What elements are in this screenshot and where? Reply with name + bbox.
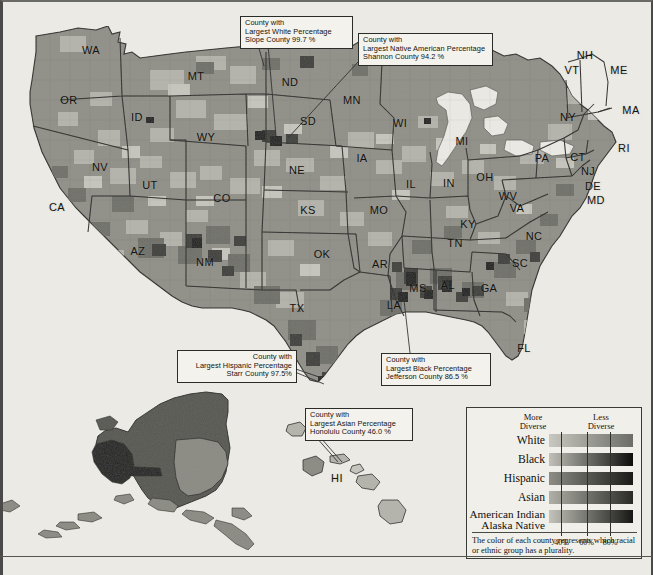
callout-black: County withLargest Black PercentageJeffe… [381,353,491,386]
state-label-nd: ND [282,76,299,88]
legend-label-hispanic: Hispanic [473,470,545,487]
state-label-co: CO [213,192,230,204]
state-label-ky: KY [460,218,475,230]
state-label-vt: VT [565,64,580,76]
state-label-az: AZ [131,245,146,257]
state-label-md: MD [587,194,605,206]
state-label-nm: NM [196,256,214,268]
callout-hispanic-line-3: Starr County 97.5% [182,370,292,379]
state-label-ca: CA [49,201,65,213]
state-label-id: ID [131,111,143,123]
page-bottom-rule [0,556,653,557]
state-label-pa: PA [535,152,550,164]
legend-tick-60 [587,432,588,536]
state-label-nv: NV [92,161,108,173]
state-label-mo: MO [370,204,389,216]
state-label-nj: NJ [581,165,595,177]
callout-native-american: County withLargest Native American Perce… [358,33,493,66]
state-label-sd: SD [300,115,316,127]
legend-heading-more-diverse: More Diverse [511,413,555,432]
state-label-ny: NY [560,111,576,123]
callout-hispanic: County withLargest Hispanic PercentageSt… [177,350,297,383]
callout-white-line-3: Slope County 99.7 % [245,36,348,45]
legend-heading-less-diverse: Less Diverse [579,413,623,432]
state-label-la: LA [387,299,401,311]
legend-tick-80 [610,432,611,536]
state-label-wa: WA [82,44,100,56]
state-label-or: OR [60,94,77,106]
state-label-tn: TN [447,237,462,249]
legend-label-white: White [473,432,545,449]
legend-caption: The color of each county represents whic… [472,532,637,555]
state-label-ok: OK [314,248,331,260]
state-label-ct: CT [570,151,585,163]
state-label-ma: MA [622,104,639,116]
state-label-sc: SC [512,257,528,269]
state-label-mt: MT [188,70,205,82]
state-label-hi: HI [331,472,343,484]
state-label-wv: WV [499,190,518,202]
state-label-wy: WY [197,131,216,143]
callout-asian: County withLargest Asian PercentageHonol… [305,408,413,441]
legend-tick-40 [561,432,562,536]
state-label-ne: NE [289,164,305,176]
state-label-ri: RI [618,142,630,154]
legend-tick-marks: 40%60%80% [543,432,627,536]
callout-asian-line-3: Honolulu County 46.0 % [310,428,408,437]
callout-white: County withLargest White PercentageSlope… [240,16,353,49]
legend-label-black: Black [473,451,545,468]
state-label-fl: FL [517,342,531,354]
state-label-ks: KS [300,204,315,216]
state-label-nh: NH [577,49,594,61]
state-label-me: ME [610,64,627,76]
callout-native-american-line-3: Shannon County 94.2 % [363,53,488,62]
state-label-il: IL [406,178,416,190]
callout-black-line-3: Jefferson County 86.5 % [386,373,486,382]
state-label-oh: OH [476,171,493,183]
legend-label-asian: Asian [473,489,545,506]
state-label-ut: UT [142,179,157,191]
state-label-al: AL [441,279,455,291]
state-label-de: DE [585,180,601,192]
map-legend: More Diverse Less Diverse WhiteBlackHisp… [466,407,642,559]
state-label-ms: MS [409,282,426,294]
state-label-tx: TX [290,302,305,314]
map-figure: WAORIDMTWYNVUTCAAZNMCONDSDNEKSOKTXMNIAMO… [0,0,653,575]
state-label-ga: GA [481,282,498,294]
state-label-nc: NC [526,230,543,242]
legend-label-american-indian: American IndianAlaska Native [461,508,545,525]
state-label-mi: MI [455,135,468,147]
state-label-ia: IA [356,152,367,164]
state-label-ar: AR [372,258,388,270]
state-label-wi: WI [393,117,407,129]
state-label-in: IN [443,177,455,189]
state-label-va: VA [510,202,525,214]
state-label-mn: MN [343,94,361,106]
